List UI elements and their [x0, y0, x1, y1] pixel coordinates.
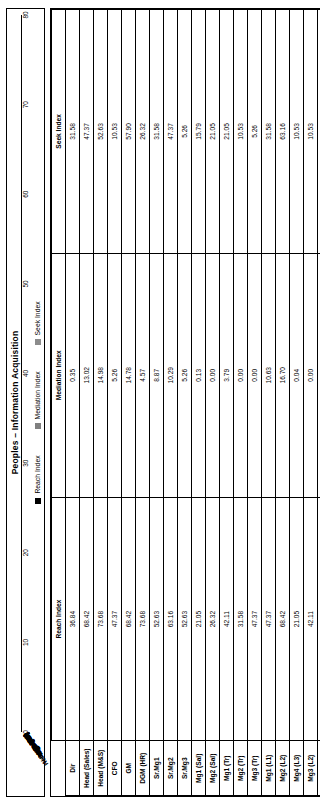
- cell-reach-index: 47.37: [248, 497, 262, 741]
- row-label: Mg1 (Sal): [192, 741, 206, 796]
- cell-mediation-index: 0.35: [66, 253, 80, 497]
- value-axis-ticks: 01020304050607080: [22, 15, 33, 732]
- cell-mediation-index: 0.13: [192, 253, 206, 497]
- cell-reach-index: 26.32: [206, 497, 220, 741]
- cell-reach-index: 63.16: [164, 497, 178, 741]
- row-label: Mg2 (Tr): [234, 741, 248, 796]
- cell-reach-index: 73.68: [136, 497, 150, 741]
- chart-panel: Peoples – Information Acquisition DirHea…: [6, 8, 45, 797]
- cell-reach-index: 73.68: [94, 497, 108, 741]
- table-row: Sr.Mg152.638.8731.58: [150, 10, 164, 796]
- axis-tick-label: 30: [22, 460, 29, 467]
- axis-tick-label: 50: [22, 280, 29, 287]
- axis-tick-label: 0: [22, 730, 29, 734]
- cell-reach-index: 21.05: [290, 497, 294, 741]
- cell-mediation-index: 16.70: [276, 253, 290, 497]
- table-row: Dir36.840.3531.58: [66, 10, 80, 796]
- cell-reach-index: 31.58: [234, 497, 248, 741]
- cell-reach-index: 47.37: [108, 497, 122, 741]
- table-corner-cell: [52, 741, 66, 796]
- cell-mediation-index: 0.04: [290, 253, 294, 497]
- cell-seek-index: 21.05: [206, 10, 220, 254]
- axis-tick-label: 80: [22, 11, 29, 18]
- cell-seek-index: 10.53: [290, 10, 294, 254]
- cell-mediation-index: 0.00: [248, 253, 262, 497]
- chart-legend: Reach IndexMediation IndexSeek Index: [33, 9, 44, 796]
- cell-seek-index: 21.05: [220, 10, 234, 254]
- table-row: Mg1 (Tr)42.113.7921.05: [220, 10, 234, 796]
- row-label: Mg2 (Sal): [206, 741, 220, 796]
- cell-seek-index: 47.37: [80, 10, 94, 254]
- row-label: Mg3 (Tr): [248, 741, 262, 796]
- cell-mediation-index: 0.00: [206, 253, 220, 497]
- column-header-mediation-index: Mediation Index: [52, 253, 66, 497]
- cell-reach-index: 21.05: [192, 497, 206, 741]
- axis-tick-label: 40: [22, 370, 29, 377]
- legend-item[interactable]: Seek Index: [34, 301, 41, 345]
- table-row: Mg4 (L3)21.050.0410.53: [290, 10, 294, 796]
- row-label: Sr.Mg3: [178, 741, 192, 796]
- cell-seek-index: 31.58: [150, 10, 164, 254]
- legend-label: Seek Index: [34, 301, 41, 335]
- table-row: Mg1 (L1)47.3710.6331.58: [262, 10, 276, 796]
- row-label: Sr.Mg1: [150, 741, 164, 796]
- cell-reach-index: 68.42: [276, 497, 290, 741]
- legend-item[interactable]: Reach Index: [34, 455, 41, 503]
- cell-reach-index: 68.42: [122, 497, 136, 741]
- data-table: Reach Index Mediation Index Seek Index D…: [51, 9, 293, 796]
- legend-label: Reach Index: [34, 455, 41, 493]
- table-row: Mg3 (Tr)47.370.005.26: [248, 10, 262, 796]
- cell-seek-index: 5.26: [248, 10, 262, 254]
- row-label: Sr.Mg2: [164, 741, 178, 796]
- axis-tick-label: 60: [22, 191, 29, 198]
- legend-item[interactable]: Mediation Index: [34, 371, 41, 429]
- cell-seek-index: 63.16: [276, 10, 290, 254]
- cell-seek-index: 26.32: [136, 10, 150, 254]
- row-label: GM: [122, 741, 136, 796]
- legend-swatch-icon: [35, 339, 41, 345]
- table-row: Head (Sales)68.4213.0247.37: [80, 10, 94, 796]
- cell-reach-index: 47.37: [262, 497, 276, 741]
- table-row: GM68.4214.7857.90: [122, 10, 136, 796]
- row-label: CFO: [108, 741, 122, 796]
- legend-swatch-icon: [35, 423, 41, 429]
- figure: Peoples – Information Acquisition DirHea…: [6, 8, 287, 797]
- cell-seek-index: 47.37: [164, 10, 178, 254]
- table-row: CFO47.375.2610.53: [108, 10, 122, 796]
- figure-rotator: Peoples – Information Acquisition DirHea…: [0, 0, 293, 805]
- table-row: Head (M&S)73.6814.9852.63: [94, 10, 108, 796]
- cell-mediation-index: 14.98: [94, 253, 108, 497]
- cell-reach-index: 36.84: [66, 497, 80, 741]
- cell-seek-index: 57.90: [122, 10, 136, 254]
- table-body: Dir36.840.3531.58Head (Sales)68.4213.024…: [66, 10, 294, 796]
- row-label: Head (Sales): [80, 741, 94, 796]
- cell-mediation-index: 10.63: [262, 253, 276, 497]
- data-table-panel: Reach Index Mediation Index Seek Index D…: [50, 8, 293, 797]
- cell-mediation-index: 5.26: [178, 253, 192, 497]
- legend-label: Mediation Index: [34, 371, 41, 419]
- row-label: DGM (HR): [136, 741, 150, 796]
- cell-mediation-index: 10.29: [164, 253, 178, 497]
- cell-seek-index: 31.58: [262, 10, 276, 254]
- column-header-seek-index: Seek Index: [52, 10, 66, 254]
- cell-seek-index: 15.79: [192, 10, 206, 254]
- cell-mediation-index: 14.78: [122, 253, 136, 497]
- row-label: Mg2 (L2): [276, 741, 290, 796]
- cell-mediation-index: 13.02: [80, 253, 94, 497]
- cell-mediation-index: 8.87: [150, 253, 164, 497]
- column-header-reach-index: Reach Index: [52, 497, 66, 741]
- cell-seek-index: 10.53: [108, 10, 122, 254]
- cell-mediation-index: 5.26: [108, 253, 122, 497]
- cell-mediation-index: 4.57: [136, 253, 150, 497]
- row-label: Mg1 (Tr): [220, 741, 234, 796]
- table-row: Mg2 (Tr)31.580.0010.53: [234, 10, 248, 796]
- category-axis-labels: DirHead (Sales)Head (M&S)CFOGMDGM (HR)Sr…: [21, 732, 22, 792]
- table-row: Sr.Mg352.635.265.26: [178, 10, 192, 796]
- row-label: Mg1 (L1): [262, 741, 276, 796]
- cell-seek-index: 10.53: [234, 10, 248, 254]
- chart-title: Peoples – Information Acquisition: [7, 9, 21, 796]
- cell-mediation-index: 0.00: [234, 253, 248, 497]
- cell-reach-index: 68.42: [80, 497, 94, 741]
- table-row: Mg2 (Sal)26.320.0021.05: [206, 10, 220, 796]
- cell-seek-index: 31.58: [66, 10, 80, 254]
